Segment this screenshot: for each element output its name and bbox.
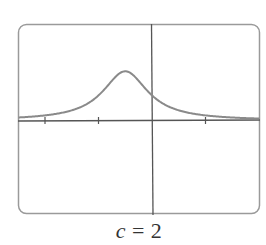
caption-equals: = [126,218,151,243]
graph-plot [0,0,266,245]
caption-value: 2 [151,218,163,243]
x-axis [18,120,260,121]
caption-variable: c [116,218,126,243]
function-curve [19,71,260,118]
graph-caption: c = 2 [0,218,266,244]
graph-frame [19,25,260,214]
y-axis [152,24,154,215]
